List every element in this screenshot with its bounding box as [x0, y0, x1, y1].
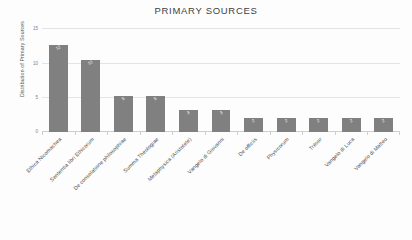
x-label-slot: Vangelo di Giovanni	[205, 134, 238, 214]
x-axis-label-physicorum: Physicorum	[266, 136, 291, 161]
bar-series: 12 10 5 5	[42, 28, 400, 132]
bar-metaphysica-aristotele[interactable]: 3	[179, 110, 198, 132]
bar-value-label: 5	[147, 93, 166, 106]
bar-de-consolatione-philosophiae[interactable]: 5	[114, 96, 133, 132]
bar-slot: 3	[205, 28, 238, 132]
bar-slot: 2	[367, 28, 400, 132]
bar-slot: 2	[335, 28, 368, 132]
bar-value-label: 10	[81, 57, 100, 70]
bar-value-label: 3	[212, 107, 231, 120]
y-axis-title: Distribution of Primary Sources	[19, 4, 25, 114]
bar-vangelo-di-matteo[interactable]: 2	[374, 118, 393, 132]
x-axis-label-ethica-nicomachea: Ethica Nicomachea	[25, 136, 63, 174]
bar-value-label: 2	[277, 114, 296, 127]
y-tick-label-10: 10	[33, 60, 38, 65]
bar-sententia-libri-ethicorum[interactable]: 10	[81, 60, 100, 132]
x-axis-label-de-officiis: De officiis	[237, 136, 258, 157]
x-axis-labels: Ethica Nicomachea Sententia libri Ethico…	[42, 134, 400, 214]
y-tick-label-5: 5	[35, 95, 38, 100]
y-tick-label-15: 15	[33, 26, 38, 31]
bar-value-label: 2	[309, 114, 328, 127]
bar-slot: 2	[270, 28, 303, 132]
bar-de-officiis[interactable]: 2	[244, 118, 263, 132]
bar-ethica-nicomachea[interactable]: 12	[49, 45, 68, 132]
x-label-slot: Physicorum	[270, 134, 303, 214]
bar-vangelo-di-luca[interactable]: 2	[342, 118, 361, 132]
plot-area: 15 10 5 0 12 10	[42, 28, 400, 132]
bar-value-label: 2	[342, 114, 361, 127]
x-label-slot: Metaphysica (Aristotele)	[172, 134, 205, 214]
bar-slot: 2	[237, 28, 270, 132]
y-tick-label-0: 0	[35, 129, 38, 134]
bar-slot: 10	[75, 28, 108, 132]
x-axis-label-tresor: Trésor	[308, 136, 323, 151]
x-label-slot: Vangelo di Luca	[335, 134, 368, 214]
plot-wrapper: Distribution of Primary Sources 15 10 5 …	[0, 0, 412, 240]
bar-value-label: 12	[49, 42, 68, 55]
bar-slot: 3	[172, 28, 205, 132]
x-label-slot: Trésor	[302, 134, 335, 214]
bar-value-label: 5	[114, 93, 133, 106]
bar-value-label: 2	[374, 114, 393, 127]
chart-container: PRIMARY SOURCES Distribution of Primary …	[0, 0, 412, 240]
x-label-slot: Vangelo di Matteo	[367, 134, 400, 214]
bar-slot: 5	[107, 28, 140, 132]
bar-vangelo-di-giovanni[interactable]: 3	[212, 110, 231, 132]
x-label-slot: De consolatione philosophiae	[107, 134, 140, 214]
x-label-slot: De officiis	[237, 134, 270, 214]
bar-tresor[interactable]: 2	[309, 118, 328, 132]
bar-summa-theologiae[interactable]: 5	[146, 96, 165, 132]
bar-value-label: 3	[179, 107, 198, 120]
bar-value-label: 2	[244, 114, 263, 127]
bar-slot: 2	[302, 28, 335, 132]
bar-physicorum[interactable]: 2	[277, 118, 296, 132]
bar-slot: 12	[42, 28, 75, 132]
bar-slot: 5	[140, 28, 173, 132]
